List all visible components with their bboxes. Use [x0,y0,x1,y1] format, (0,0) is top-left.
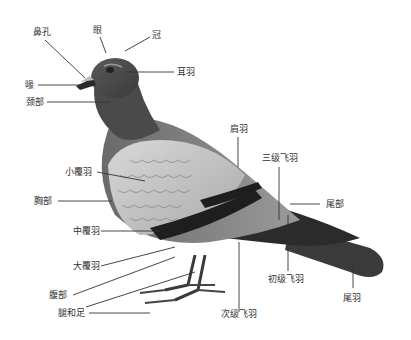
pigeon-anatomy-diagram: 鼻孔 眼 冠 耳羽 喙 颈部 肩羽 三级飞羽 小覆羽 胸部 尾部 中覆羽 大覆羽… [0,0,411,340]
label-crown: 冠 [152,30,161,40]
label-belly: 腹部 [49,290,67,300]
label-lesser-coverts: 小覆羽 [65,167,92,177]
eye [106,67,114,73]
label-nostril: 鼻孔 [33,27,51,37]
pigeon-illustration [0,0,411,340]
label-legs-and-feet: 腿和足 [58,308,85,318]
label-beak: 喙 [25,80,34,90]
label-tertials: 三级飞羽 [262,153,298,163]
label-eye: 眼 [93,25,102,35]
label-median-coverts: 中覆羽 [73,226,100,236]
label-scapulars: 肩羽 [230,124,248,134]
label-greater-coverts: 大覆羽 [73,261,100,271]
label-primaries: 初级飞羽 [268,274,304,284]
label-rump: 尾部 [326,199,344,209]
label-neck: 颈部 [26,97,44,107]
label-secondaries: 次级飞羽 [221,309,257,319]
label-ear-coverts: 耳羽 [177,67,195,77]
label-tail-feathers: 尾羽 [343,293,361,303]
label-breast: 胸部 [34,196,52,206]
